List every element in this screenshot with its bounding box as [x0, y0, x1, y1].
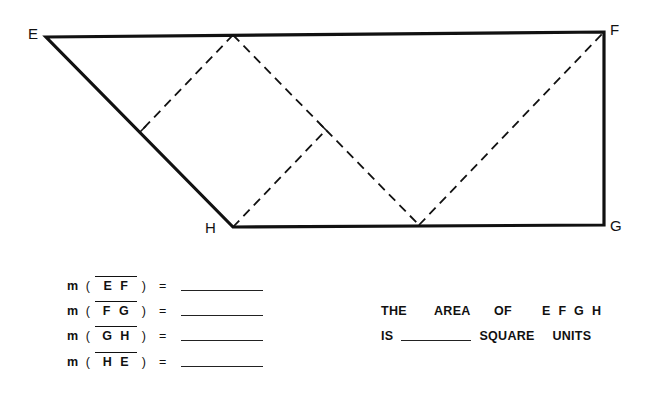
- word-units: UNITS: [552, 329, 591, 343]
- equals-sign: =: [149, 329, 177, 343]
- word-square: SQUARE: [479, 329, 552, 343]
- area-question-line1: THE AREA OF E F G H: [381, 298, 601, 318]
- vertex-label-E: E: [28, 26, 38, 41]
- answer-blank-GH[interactable]: [181, 340, 263, 341]
- dashed-line-top-to-EH: [140, 35, 233, 132]
- measure-row-GH: m ( G H ) =: [67, 323, 263, 343]
- close-paren: ): [139, 329, 149, 343]
- segment-FG: F G: [93, 304, 139, 318]
- equals-sign: =: [149, 304, 177, 318]
- measure-prefix: m: [67, 355, 83, 369]
- segment-EF: E F: [93, 279, 139, 293]
- dashed-line-H-to-mid: [233, 130, 326, 227]
- answer-blank-FG[interactable]: [181, 315, 263, 316]
- measure-row-HE: m ( H E ) =: [67, 349, 263, 369]
- trapezoid-diagram: [0, 0, 655, 250]
- measure-prefix: m: [67, 304, 83, 318]
- close-paren: ): [139, 304, 149, 318]
- figure-name-EFGH: E F G H: [542, 304, 601, 318]
- dashed-line-mid-to-HG: [326, 130, 419, 225]
- measure-prefix: m: [67, 279, 83, 293]
- measure-prefix: m: [67, 329, 83, 343]
- dashed-line-top-to-mid: [233, 35, 326, 130]
- measure-row-EF: m ( E F ) =: [67, 273, 263, 293]
- open-paren: (: [83, 279, 93, 293]
- answer-blank-EF[interactable]: [181, 290, 263, 291]
- word-of: OF: [494, 304, 542, 318]
- equals-sign: =: [149, 279, 177, 293]
- segment-HE: H E: [93, 355, 139, 369]
- open-paren: (: [83, 355, 93, 369]
- vertex-label-G: G: [610, 218, 622, 233]
- segment-GH: G H: [93, 329, 139, 343]
- equals-sign: =: [149, 355, 177, 369]
- open-paren: (: [83, 329, 93, 343]
- dashed-line-HG-to-F: [419, 32, 604, 225]
- close-paren: ): [139, 279, 149, 293]
- right-angle-ticks: [140, 124, 326, 132]
- open-paren: (: [83, 304, 93, 318]
- area-question-line2: IS SQUARE UNITS: [381, 323, 591, 343]
- measure-row-FG: m ( F G ) =: [67, 298, 263, 318]
- word-is: IS: [381, 329, 393, 343]
- word-the: THE: [381, 304, 434, 318]
- dashed-construction-lines: [140, 32, 604, 227]
- vertex-label-H: H: [205, 220, 216, 235]
- answer-blank-HE[interactable]: [181, 366, 263, 367]
- close-paren: ): [139, 355, 149, 369]
- word-area: AREA: [434, 304, 494, 318]
- area-answer-blank[interactable]: [401, 340, 471, 341]
- vertex-label-F: F: [610, 22, 619, 37]
